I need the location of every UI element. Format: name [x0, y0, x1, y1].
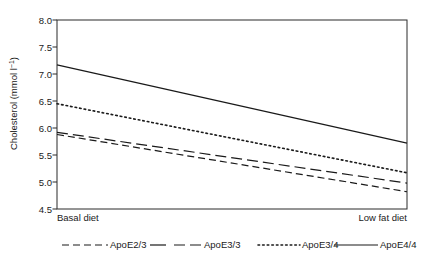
chart-legend: ApoE2/3ApoE3/3ApoE3/4ApoE4/4 — [62, 239, 416, 250]
y-axis-title-suffix: ) — [8, 57, 19, 60]
legend-label-ApoE4-4: ApoE4/4 — [380, 239, 416, 250]
cholesterol-line-chart: Cholesterol (mmol l−1) 8.0 7.5 7.0 6.5 6… — [0, 0, 429, 265]
y-tick-label-7.5: 7.5 — [39, 42, 52, 53]
y-tick-label-4.5: 4.5 — [39, 204, 52, 215]
y-tick-label-6.5: 6.5 — [39, 96, 52, 107]
y-tick-label-6.0: 6.0 — [39, 123, 52, 134]
legend-label-ApoE3-3: ApoE3/3 — [204, 239, 240, 250]
series-line-ApoE3-4 — [57, 104, 407, 173]
series-line-ApoE3-3 — [57, 132, 407, 183]
svg-text:Cholesterol (mmol l−1): Cholesterol (mmol l−1) — [8, 57, 19, 150]
y-tick-label-5.5: 5.5 — [39, 150, 52, 161]
y-tick-label-5.0: 5.0 — [39, 177, 52, 188]
y-axis-ticks: 8.0 7.5 7.0 6.5 6.0 5.5 5.0 4.5 — [39, 15, 57, 215]
series-group — [57, 65, 407, 192]
chart-figure: Cholesterol (mmol l−1) 8.0 7.5 7.0 6.5 6… — [0, 0, 429, 265]
plot-area-frame — [57, 20, 407, 209]
y-axis-title: Cholesterol (mmol l−1) — [8, 57, 19, 150]
series-line-ApoE4-4 — [57, 65, 407, 143]
y-tick-label-8.0: 8.0 — [39, 15, 52, 26]
legend-label-ApoE2-3: ApoE2/3 — [110, 239, 146, 250]
x-category-label-basal: Basal diet — [57, 212, 99, 223]
legend-label-ApoE3-4: ApoE3/4 — [302, 239, 338, 250]
y-axis-title-text: Cholesterol (mmol l — [8, 68, 19, 150]
x-category-label-lowfat: Low fat diet — [358, 212, 407, 223]
y-axis-title-superscript: −1 — [8, 60, 15, 68]
y-tick-label-7.0: 7.0 — [39, 69, 52, 80]
